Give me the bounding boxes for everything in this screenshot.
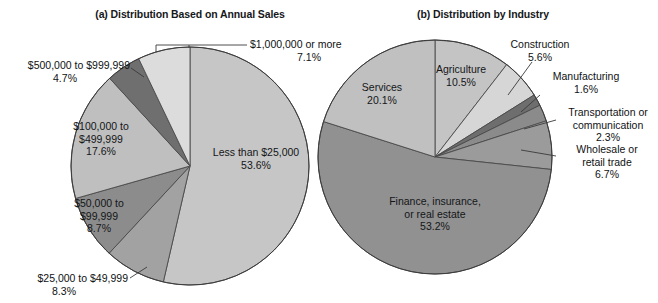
- label-services-text: Services: [362, 81, 402, 93]
- label-five-hundred-k: $500,000 to $999,999 4.7%: [0, 59, 130, 84]
- label-twentyfive-k-text: $25,000 to $49,999: [37, 272, 128, 284]
- label-hundred-k: $100,000 to $499,999 17.6%: [58, 120, 144, 158]
- label-million-or-more-pct: 7.1%: [250, 51, 368, 64]
- label-less-than-25k-text: Less than $25,000: [213, 146, 299, 158]
- label-fifty-k: $50,000 to $99,999 8.7%: [58, 197, 140, 235]
- label-less-than-25k: Less than $25,000 53.6%: [196, 146, 316, 171]
- label-finance-line2: or real estate: [360, 208, 510, 221]
- label-twentyfive-k: $25,000 to $49,999 8.3%: [0, 272, 128, 297]
- label-construction: Construction 5.6%: [498, 38, 582, 63]
- label-hundred-k-line1: $100,000 to: [73, 120, 128, 132]
- label-five-hundred-k-text: $500,000 to $999,999: [28, 59, 130, 71]
- figure-container: Characteristics of Women-Owned Businesse…: [0, 0, 658, 303]
- label-fifty-k-line2: $99,999: [58, 210, 140, 223]
- label-transportation: Transportation or communication 2.3%: [560, 106, 656, 144]
- label-transportation-line2: communication: [560, 119, 656, 132]
- label-hundred-k-line2: $499,999: [58, 133, 144, 146]
- label-wholesale-line1: Wholesale or: [576, 143, 637, 155]
- label-fifty-k-line1: $50,000 to: [74, 197, 124, 209]
- label-services: Services 20.1%: [344, 81, 420, 106]
- label-five-hundred-k-pct: 4.7%: [0, 72, 130, 85]
- label-agriculture-text: Agriculture: [436, 63, 486, 75]
- label-finance-pct: 53.2%: [360, 220, 510, 233]
- label-construction-pct: 5.6%: [498, 51, 582, 64]
- label-hundred-k-pct: 17.6%: [58, 145, 144, 158]
- label-wholesale-pct: 6.7%: [562, 168, 652, 181]
- label-fifty-k-pct: 8.7%: [58, 222, 140, 235]
- label-manufacturing-pct: 1.6%: [538, 83, 634, 96]
- label-manufacturing: Manufacturing 1.6%: [538, 70, 634, 95]
- label-construction-text: Construction: [511, 38, 570, 50]
- label-wholesale-line2: retail trade: [562, 156, 652, 169]
- label-less-than-25k-pct: 53.6%: [196, 159, 316, 172]
- label-transportation-pct: 2.3%: [560, 131, 656, 144]
- label-services-pct: 20.1%: [344, 94, 420, 107]
- label-agriculture-pct: 10.5%: [426, 76, 496, 89]
- label-million-or-more-text: $1,000,000 or more: [250, 38, 342, 50]
- label-finance: Finance, insurance, or real estate 53.2%: [360, 195, 510, 233]
- label-twentyfive-k-pct: 8.3%: [0, 285, 128, 298]
- label-wholesale: Wholesale or retail trade 6.7%: [562, 143, 652, 181]
- label-agriculture: Agriculture 10.5%: [426, 63, 496, 88]
- label-transportation-line1: Transportation or: [568, 106, 648, 118]
- label-manufacturing-text: Manufacturing: [553, 70, 620, 82]
- label-million-or-more: $1,000,000 or more 7.1%: [250, 38, 368, 63]
- label-finance-line1: Finance, insurance,: [389, 195, 481, 207]
